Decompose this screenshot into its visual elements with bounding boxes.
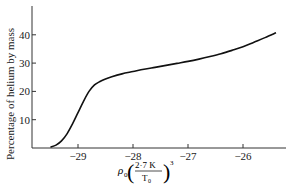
data-line xyxy=(51,33,277,147)
x-tick-label: −29 xyxy=(69,150,87,162)
x-label-numerator: 2·7 K xyxy=(135,160,156,170)
x-label-rho: ρ xyxy=(117,164,123,176)
x-tick-label: −27 xyxy=(179,150,197,162)
x-ticks: −29−28−27−26 xyxy=(69,144,252,162)
y-tick-label: 10 xyxy=(19,114,31,126)
x-label-den-sub: 0 xyxy=(148,178,151,184)
y-tick-label: 20 xyxy=(19,85,31,97)
x-tick-label: −26 xyxy=(234,150,252,162)
y-tick-label: 40 xyxy=(19,29,31,41)
x-label-exponent: 3 xyxy=(170,159,174,167)
left-paren: ( xyxy=(127,159,134,184)
y-tick-label: 30 xyxy=(19,57,31,69)
y-ticks: 10203040 xyxy=(19,29,36,126)
chart: 10203040 −29−28−27−26 Percentage of heli… xyxy=(0,0,292,188)
x-axis-label: ρ 0 ( 2·7 K T 0 ) 3 xyxy=(117,159,174,184)
y-axis-label: Percentage of helium by mass xyxy=(4,28,16,160)
